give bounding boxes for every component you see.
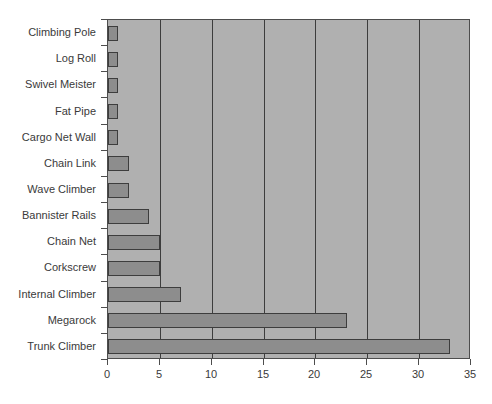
bar-row [108,156,469,171]
bar [108,130,118,145]
bar [108,209,149,224]
category-label: Chain Link [44,157,96,169]
bar-row [108,209,469,224]
value-tick [366,359,367,365]
chart-title [0,0,492,3]
value-tick [263,359,264,365]
bar [108,287,181,302]
value-tick-label: 15 [257,368,269,381]
bar-row [108,235,469,250]
category-label: Bannister Rails [22,209,96,221]
bars-layer [108,20,469,358]
value-tick-label: 20 [308,368,320,381]
bar-row [108,78,469,93]
bar-row [108,52,469,67]
bar [108,183,129,198]
value-tick [159,359,160,365]
value-tick-label: 25 [360,368,372,381]
category-label: Wave Climber [27,183,96,195]
category-label: Log Roll [56,52,96,64]
category-label: Trunk Climber [27,340,96,352]
category-label: Corkscrew [44,261,96,273]
plot-area [107,19,470,359]
bar [108,26,118,41]
value-tick [418,359,419,365]
value-tick-label: 35 [464,368,476,381]
bar-row [108,104,469,119]
bar [108,261,160,276]
value-tick [211,359,212,365]
bar-row [108,339,469,354]
bar-row [108,313,469,328]
value-tick-label: 30 [412,368,424,381]
bar [108,339,450,354]
bar-row [108,261,469,276]
value-tick-label: 10 [205,368,217,381]
value-tick [107,359,108,365]
bar [108,78,118,93]
bar [108,52,118,67]
category-label: Climbing Pole [28,26,96,38]
value-tick [314,359,315,365]
bar-row [108,183,469,198]
category-axis: Climbing PoleLog RollSwivel MeisterFat P… [0,19,107,359]
category-label: Chain Net [47,235,96,247]
category-label: Megarock [48,314,96,326]
value-axis: 05101520253035 [107,359,470,389]
bar [108,156,129,171]
value-tick-label: 5 [156,368,162,381]
bar-row [108,287,469,302]
bar-row [108,26,469,41]
bar [108,313,347,328]
category-label: Fat Pipe [55,105,96,117]
value-tick-label: 0 [104,368,110,381]
category-label: Swivel Meister [25,78,96,90]
category-label: Internal Climber [18,288,96,300]
bar-chart: Climbing PoleLog RollSwivel MeisterFat P… [0,0,492,404]
category-label: Cargo Net Wall [22,131,96,143]
bar [108,235,160,250]
bar [108,104,118,119]
bar-row [108,130,469,145]
value-tick [470,359,471,365]
